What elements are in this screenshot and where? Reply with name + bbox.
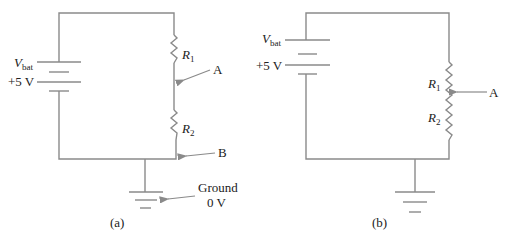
caption-a: (a) — [110, 215, 124, 230]
wiper-label-a: A — [489, 85, 499, 100]
battery-label-a: Vbat — [14, 55, 33, 72]
arrow-ground — [168, 196, 195, 199]
battery-a — [37, 62, 81, 91]
resistor-label-r2-a: R2 — [181, 121, 194, 138]
arrow-b-node — [186, 153, 215, 156]
arrow-a-node — [184, 70, 210, 80]
potentiometer-b — [446, 62, 452, 140]
ground-symbol-a — [129, 192, 163, 208]
battery-b — [285, 40, 330, 74]
ground-voltage-label: 0 V — [207, 195, 227, 210]
circuit-diagram: Vbat +5 V R1 R2 A B Ground 0 V (a) — [0, 0, 508, 244]
panel-b: Vbat +5 V R1 R2 A (b) — [256, 13, 499, 230]
resistor-label-r1-b: R1 — [427, 76, 440, 93]
caption-b: (b) — [372, 215, 387, 230]
node-label-b: B — [218, 145, 227, 160]
resistor-label-r2-b: R2 — [427, 110, 440, 127]
resistor-r1-a — [171, 35, 177, 63]
battery-voltage-b: +5 V — [256, 58, 283, 73]
ground-label: Ground — [198, 180, 238, 195]
battery-label-b: Vbat — [262, 31, 281, 48]
panel-a: Vbat +5 V R1 R2 A B Ground 0 V (a) — [8, 13, 238, 230]
battery-voltage-a: +5 V — [8, 74, 35, 89]
ground-symbol-b — [395, 192, 435, 212]
wire-loop-a — [59, 13, 176, 192]
resistor-r2-a — [171, 110, 177, 140]
resistor-label-r1-a: R1 — [181, 47, 194, 64]
node-label-a: A — [213, 62, 223, 77]
